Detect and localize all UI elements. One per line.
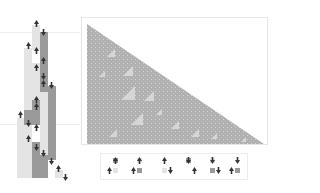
rule-icon-5: [206, 154, 228, 179]
tape-cell-dark: [48, 86, 56, 160]
rule-output-cell: [113, 168, 118, 173]
tape-cell-dark: [40, 155, 48, 178]
rule-icons-panel: [100, 153, 248, 180]
rule-icon-4: [182, 154, 204, 179]
tape-cell-light: [40, 92, 48, 155]
rule-output-cell: [137, 168, 142, 173]
rule-output-cell: [162, 168, 167, 173]
rule-output-cell: [210, 168, 215, 173]
tape-cell-dark: [40, 32, 48, 78]
rule-icon-3: [158, 154, 180, 179]
evolution-panel: [81, 17, 268, 145]
rule-icon-1: [109, 154, 131, 179]
evolution-triangle: [82, 18, 269, 146]
rule-output-cell: [235, 168, 240, 173]
rule-icon-6: [231, 154, 253, 179]
rule-icon-2: [133, 154, 155, 179]
